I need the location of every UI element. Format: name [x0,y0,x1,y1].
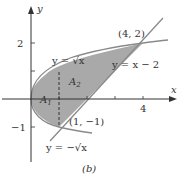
figure-caption: (b) [82,163,96,174]
point-label-1-neg1: (1, −1) [69,116,104,127]
shaded-region [31,43,143,127]
label-x-minus-2: y = x − 2 [111,59,159,70]
y-tick-label-neg1: −1 [11,122,26,133]
label-sqrt-x: y = √x [51,55,85,66]
y-axis-label: y [36,3,43,14]
area-between-curves-figure: y x 4 2 −1 y = √x y = x − 2 y = −√x (4, … [0,0,180,176]
label-neg-sqrt-x: y = −√x [45,142,87,153]
x-axis-arrow-icon [169,96,177,102]
y-tick-label-2: 2 [17,38,23,49]
y-axis-arrow-icon [28,6,34,14]
point-label-4-2: (4, 2) [118,28,145,39]
x-tick-label-4: 4 [140,103,146,114]
x-axis-label: x [171,84,177,95]
